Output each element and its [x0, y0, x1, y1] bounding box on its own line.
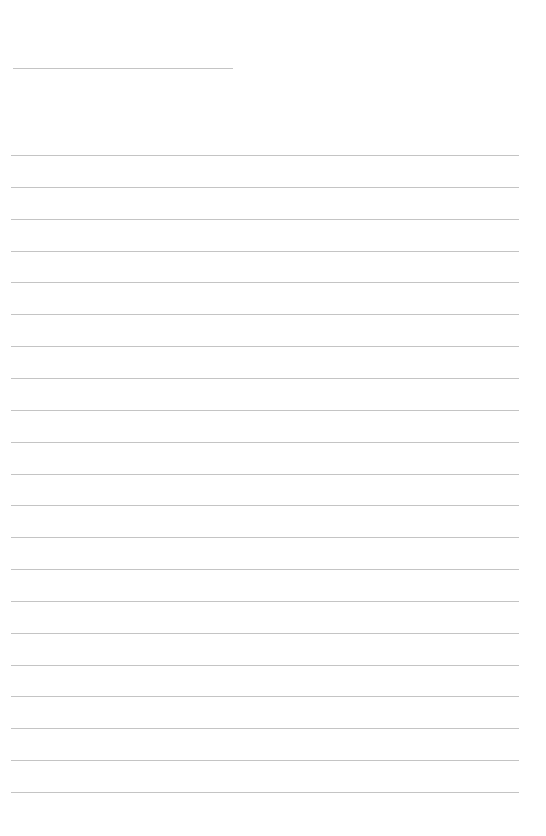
ruled-line: [11, 601, 519, 602]
ruled-line: [11, 378, 519, 379]
ruled-line: [11, 505, 519, 506]
ruled-page: [0, 0, 546, 836]
ruled-line: [11, 282, 519, 283]
ruled-line: [11, 633, 519, 634]
title-line: [13, 68, 233, 69]
ruled-line: [11, 155, 519, 156]
ruled-line: [11, 792, 519, 793]
ruled-line: [11, 314, 519, 315]
ruled-line: [11, 537, 519, 538]
ruled-line: [11, 187, 519, 188]
ruled-line: [11, 442, 519, 443]
ruled-line: [11, 696, 519, 697]
ruled-line: [11, 346, 519, 347]
ruled-line: [11, 569, 519, 570]
ruled-line: [11, 219, 519, 220]
ruled-line: [11, 665, 519, 666]
ruled-line: [11, 760, 519, 761]
ruled-line: [11, 474, 519, 475]
ruled-line: [11, 410, 519, 411]
ruled-line: [11, 251, 519, 252]
ruled-line: [11, 728, 519, 729]
